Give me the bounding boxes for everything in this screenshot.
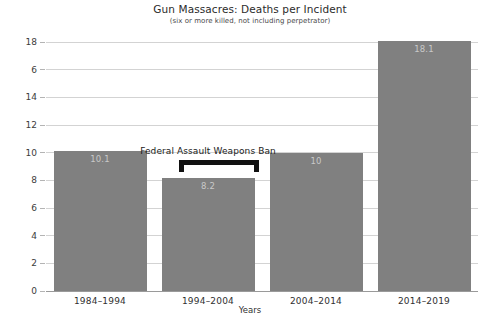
y-axis-tick-label: 6 <box>31 203 37 213</box>
y-axis-tick-mark <box>40 69 45 70</box>
bracket-cap-left <box>179 160 184 172</box>
bar-value-label: 18.1 <box>378 44 471 54</box>
y-axis-tick-mark <box>40 97 45 98</box>
y-axis-tick-label: 12 <box>26 120 37 130</box>
bar[interactable]: 8.2 <box>162 178 255 291</box>
y-axis-tick-mark <box>40 42 45 43</box>
bar[interactable]: 18.1 <box>378 41 471 291</box>
x-axis-title: Years <box>0 305 500 315</box>
y-axis-tick-mark <box>40 180 45 181</box>
y-axis-tick-label: 18 <box>26 37 37 47</box>
y-axis-tick-mark <box>40 235 45 236</box>
bar-value-label: 10.1 <box>54 154 147 164</box>
y-axis-tick-label: 4 <box>31 231 37 241</box>
chart-header: Gun Massacres: Deaths per Incident (six … <box>0 3 500 26</box>
y-axis-tick-label: 8 <box>31 175 37 185</box>
annotation-label: Federal Assault Weapons Ban <box>140 146 276 156</box>
chart-subtitle: (six or more killed, not including perpe… <box>0 16 500 26</box>
bar[interactable]: 10 <box>270 153 363 291</box>
y-axis-tick-label: 0 <box>31 286 37 296</box>
bracket-cap-right <box>254 160 259 172</box>
bar-value-label: 10 <box>270 156 363 166</box>
y-axis-tick-mark <box>40 125 45 126</box>
chart-title: Gun Massacres: Deaths per Incident <box>0 3 500 16</box>
bar[interactable]: 10.1 <box>54 151 147 291</box>
y-axis-tick-mark <box>40 152 45 153</box>
y-axis-tick-label: 14 <box>26 92 37 102</box>
y-axis-tick-label: 10 <box>26 148 37 158</box>
y-axis-tick-mark <box>40 263 45 264</box>
chart-container: Gun Massacres: Deaths per Incident (six … <box>0 0 500 323</box>
y-axis-tick-mark <box>40 291 45 292</box>
y-axis-tick-mark <box>40 208 45 209</box>
y-axis-tick-label: 2 <box>31 258 37 268</box>
bar-value-label: 8.2 <box>162 181 255 191</box>
plot-area: 0246810121461810.11984–19948.21994–20041… <box>46 42 478 291</box>
bracket-span <box>179 160 259 165</box>
y-axis-tick-label: 6 <box>31 65 37 75</box>
